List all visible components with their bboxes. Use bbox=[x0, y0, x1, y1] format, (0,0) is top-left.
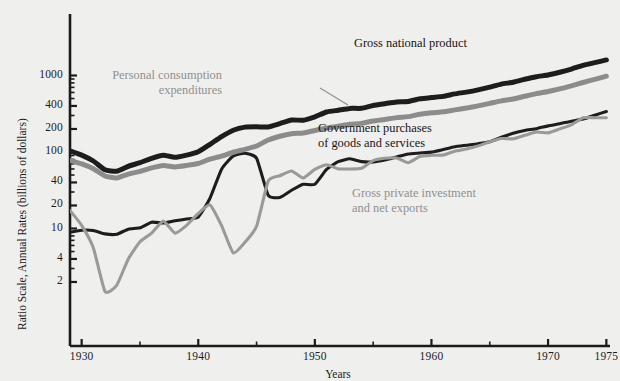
y-tick-label: 1000 bbox=[23, 68, 63, 80]
x-tick-label: 1970 bbox=[526, 350, 570, 362]
pce-label-line: Personal consumption bbox=[112, 68, 222, 83]
x-tick-label: 1960 bbox=[409, 350, 453, 362]
pce-label-leader bbox=[320, 88, 348, 105]
pce-label: Personal consumptionexpenditures bbox=[112, 68, 222, 97]
y-tick-label: 40 bbox=[23, 174, 63, 186]
gov-label-line: of goods and services bbox=[318, 136, 432, 151]
gnp-label: Gross national product bbox=[354, 36, 467, 51]
y-tick-label: 4 bbox=[23, 251, 63, 263]
gov-label-line: Government purchases bbox=[318, 121, 432, 136]
y-tick-label: 200 bbox=[23, 121, 63, 133]
pce-label-line: expenditures bbox=[112, 83, 222, 98]
chart-root: 241020401002004001000 193019401950196019… bbox=[0, 0, 620, 381]
x-tick-label: 1975 bbox=[584, 350, 620, 362]
axes-group bbox=[70, 14, 610, 346]
x-tick-label: 1930 bbox=[60, 350, 104, 362]
y-axis-title: Ratio Scale, Annual Rates (billions of d… bbox=[16, 118, 28, 330]
y-tick-label: 10 bbox=[23, 221, 63, 233]
y-tick-label: 400 bbox=[23, 98, 63, 110]
x-tick-label: 1940 bbox=[176, 350, 220, 362]
leader-lines-group bbox=[320, 88, 348, 105]
gov-label: Government purchasesof goods and service… bbox=[318, 121, 432, 150]
gpi-label: Gross private investmentand net exports bbox=[352, 186, 476, 215]
y-tick-label: 2 bbox=[23, 274, 63, 286]
gpi-label-line: and net exports bbox=[352, 201, 476, 216]
y-tick-label: 100 bbox=[23, 144, 63, 156]
gnp-label-line: Gross national product bbox=[354, 36, 467, 51]
y-tick-label: 20 bbox=[23, 197, 63, 209]
x-tick-label: 1950 bbox=[293, 350, 337, 362]
plot-area bbox=[0, 0, 620, 381]
gpi-label-line: Gross private investment bbox=[352, 186, 476, 201]
x-axis-title: Years bbox=[278, 368, 398, 380]
chart-canvas bbox=[0, 0, 620, 381]
